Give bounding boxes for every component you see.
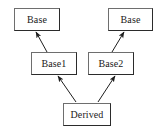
class-diagram: Base Base Base1 Base2 Derived (0, 0, 166, 135)
node-label: Base (121, 15, 141, 25)
edge-base2-to-base (112, 32, 124, 52)
edge-derived-to-base2 (98, 76, 115, 102)
node-derived[interactable]: Derived (63, 103, 111, 126)
node-base-right[interactable]: Base (108, 8, 153, 31)
node-base-left[interactable]: Base (14, 8, 60, 31)
node-base1[interactable]: Base1 (31, 52, 77, 75)
edge-derived-to-base1 (58, 76, 76, 102)
edge-base1-to-base (36, 32, 47, 52)
node-label: Base1 (42, 59, 67, 69)
node-label: Base2 (99, 59, 124, 69)
node-label: Derived (71, 110, 104, 120)
node-label: Base (27, 15, 47, 25)
node-base2[interactable]: Base2 (88, 52, 134, 75)
